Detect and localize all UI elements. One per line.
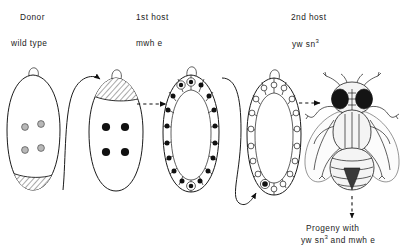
first-host-embryo <box>86 70 146 191</box>
figure-canvas: Donor wild type 1st host mwh e 2nd host … <box>0 0 405 252</box>
second-host-blastoderm <box>247 70 301 195</box>
fly-eye-left <box>332 89 349 109</box>
fly-eye-right <box>356 89 373 109</box>
donor-embryo <box>4 68 63 195</box>
diagram-artwork <box>0 0 405 252</box>
first-host-blastoderm <box>163 67 219 192</box>
adult-fly <box>305 72 399 190</box>
fly-head <box>332 82 373 114</box>
second-host-grafted-pole-cell <box>260 179 269 188</box>
